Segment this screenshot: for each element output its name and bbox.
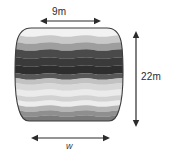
- height-label: 22m: [141, 71, 161, 82]
- arrowhead-top-right: [133, 31, 139, 38]
- top-dimension-arrow: [40, 18, 101, 24]
- arrowhead-left-bottom: [31, 135, 38, 141]
- top-width-label: 9m: [52, 6, 66, 17]
- arrowhead-left-top: [40, 18, 47, 24]
- barrel-band-0: [10, 24, 130, 37]
- right-dimension-arrow: [133, 31, 139, 127]
- barrel-band-group: [10, 24, 130, 126]
- bottom-width-label: w: [66, 141, 73, 151]
- diagram-canvas: 9m 22m w: [0, 0, 173, 158]
- arrowhead-right-bottom: [103, 135, 110, 141]
- arrowhead-bottom-right: [133, 120, 139, 127]
- arrowhead-right-top: [94, 18, 101, 24]
